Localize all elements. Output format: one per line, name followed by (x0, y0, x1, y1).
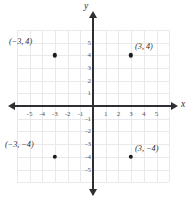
y-axis-down-arrowhead-icon (89, 189, 97, 196)
x-axis-label: x (181, 100, 185, 110)
data-point-label: (−3, −4) (5, 141, 34, 149)
x-tick-label: -5 (27, 111, 33, 118)
y-tick-label: 4 (83, 52, 91, 59)
y-tick-label: -2 (83, 128, 91, 135)
x-tick-label: -4 (39, 111, 45, 118)
data-point-label: (3, 4) (135, 43, 153, 51)
y-axis-label: y (84, 2, 88, 12)
x-tick-label: 3 (129, 111, 133, 118)
data-point-label: (−3, 4) (9, 38, 32, 46)
y-tick-label: 1 (83, 90, 91, 97)
y-axis-line (92, 13, 94, 195)
y-tick-label: 2 (83, 77, 91, 84)
x-tick-label: 4 (142, 111, 146, 118)
x-tick-label: 2 (117, 111, 121, 118)
x-axis-right-arrowhead-icon (171, 102, 178, 110)
y-axis-up-arrowhead-icon (89, 11, 97, 18)
x-tick-label: 5 (155, 111, 159, 118)
y-tick-label: -1 (83, 115, 91, 122)
y-tick-label: -3 (83, 141, 91, 148)
grid-lines (0, 0, 193, 207)
x-tick-label: -2 (65, 111, 71, 118)
y-tick-label: -5 (83, 166, 91, 173)
x-axis-left-arrowhead-icon (8, 102, 15, 110)
x-tick-label: 1 (104, 111, 108, 118)
coordinate-plane-figure: y x -5-4-3-2-112345 54321-1-2-3-4-5 (−3,… (0, 0, 193, 207)
y-tick-label: -4 (83, 153, 91, 160)
y-tick-label: 3 (83, 64, 91, 71)
x-tick-label: -3 (52, 111, 58, 118)
data-point-label: (3, −4) (135, 145, 158, 153)
y-tick-label: 5 (83, 39, 91, 46)
